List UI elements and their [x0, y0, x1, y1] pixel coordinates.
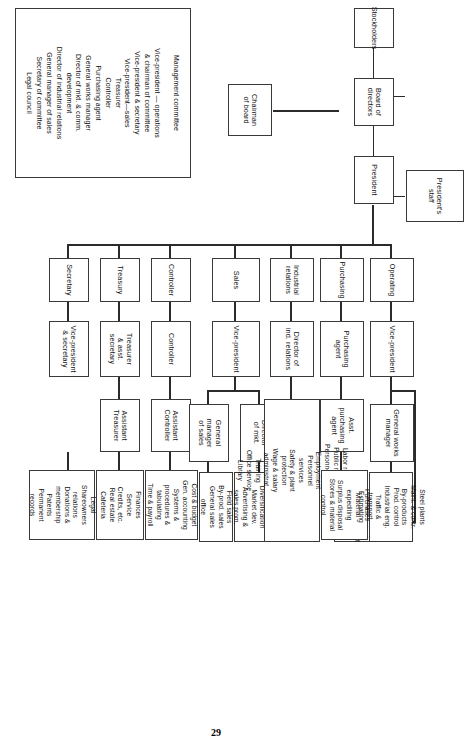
- node-treasury[interactable]: Treasury: [100, 258, 140, 302]
- edge-dir-indrel-list: [290, 377, 292, 399]
- edge-vpsec-list: [67, 452, 69, 470]
- edge-pa-asst: [340, 377, 342, 399]
- list-controller-activities[interactable]: Cost & budget Gen. accounting Systems & …: [145, 470, 198, 540]
- node-chairman-of-board[interactable]: Chairman of board: [228, 84, 272, 136]
- edge-salesvp-split: [234, 377, 236, 391]
- edge-salesvp-gms: [207, 390, 209, 404]
- spine-stub-operating: [390, 244, 392, 258]
- edge-operating-officer: [390, 301, 392, 321]
- list-secretary-activities[interactable]: Legal Shareowners relations Donations & …: [29, 470, 95, 540]
- node-vp-secretary[interactable]: Vice-president & secretary: [49, 321, 89, 377]
- node-sales-vp[interactable]: Vice-president: [212, 321, 260, 377]
- node-secretary[interactable]: Secretary: [49, 258, 89, 302]
- node-operating-vp[interactable]: Vice-president: [370, 321, 414, 377]
- list-operating-activities[interactable]: Steel plants Maint. & contr. By-products…: [369, 472, 413, 542]
- edge-opvp-split: [390, 377, 392, 391]
- spine-top-extension: [372, 244, 392, 246]
- edge-salesvp-mkt: [258, 390, 260, 404]
- list-treasury-activities[interactable]: Finances Service Credits, etc. Real esta…: [96, 470, 144, 540]
- spine-stub-treasury: [118, 244, 120, 258]
- edge-board-president: [373, 126, 374, 156]
- edge-treasury-officer: [118, 301, 120, 321]
- edge-controller-asst: [169, 377, 171, 399]
- panel-management-committee[interactable]: Management committee Vice-president — op…: [15, 8, 191, 178]
- edge-stockholders-board: [373, 47, 374, 79]
- node-purchasing[interactable]: Purchasing: [320, 258, 364, 302]
- node-industrial-relations[interactable]: Industrial relations: [270, 258, 314, 302]
- edge-opvp-gwm: [390, 390, 392, 404]
- list-sales-field-activities[interactable]: Field sales By-prod. sales General sales…: [199, 472, 233, 542]
- spine-stub-indrel: [290, 244, 292, 258]
- node-presidents-staff[interactable]: President's staff: [406, 170, 464, 222]
- spine-stub-purchasing: [340, 244, 342, 258]
- spine-stub-controller: [169, 244, 171, 258]
- function-spine: [68, 244, 374, 246]
- edge-secretary-officer: [67, 301, 69, 321]
- edge-purchasing-officer: [340, 301, 342, 321]
- edge-asstreas-list: [118, 452, 120, 470]
- node-general-manager-of-sales[interactable]: General manager of sales: [189, 404, 229, 462]
- edge-board-chairman-down: [273, 110, 339, 112]
- node-president[interactable]: President: [354, 156, 394, 204]
- node-sales[interactable]: Sales: [212, 258, 260, 302]
- spine-stub-secretary: [67, 244, 69, 258]
- node-purchasing-agent[interactable]: Purchasing agent: [320, 321, 364, 377]
- node-board-of-directors[interactable]: Board of directors: [354, 78, 394, 126]
- edge-asstcont-list: [169, 452, 171, 470]
- spine-stub-sales: [234, 244, 236, 258]
- node-director-ind-relations[interactable]: Director of ind. relations: [270, 321, 314, 377]
- edge-gwm-list: [390, 462, 392, 472]
- node-assistant-treasurer[interactable]: Assistant Treasurer: [100, 399, 140, 452]
- edge-gms-list: [207, 462, 209, 472]
- edge-salesvp-branch: [208, 390, 260, 392]
- node-controller[interactable]: Controller: [151, 258, 191, 302]
- edge-opvp-branch: [390, 390, 416, 392]
- edge-president-spine: [372, 205, 374, 245]
- node-stockholders[interactable]: Stockholders: [354, 8, 394, 48]
- edge-controller-officer: [169, 301, 171, 321]
- page-number: 29: [0, 727, 432, 738]
- list-industrial-relations-activities[interactable]: Labor relations Public relations Personn…: [264, 399, 320, 542]
- node-controller-officer[interactable]: Controller: [151, 321, 191, 377]
- edge-indrel-officer: [290, 301, 292, 321]
- edge-sales-officer: [234, 301, 236, 321]
- node-treasurer-asst-secretary[interactable]: Treasurer & asst. secretary: [100, 321, 140, 377]
- edge-treasurer-asst: [118, 377, 120, 399]
- node-assistant-controller[interactable]: Assistant Controller: [151, 399, 191, 452]
- node-general-works-manager[interactable]: General works manager: [370, 404, 414, 462]
- node-operating[interactable]: Operating: [370, 258, 414, 302]
